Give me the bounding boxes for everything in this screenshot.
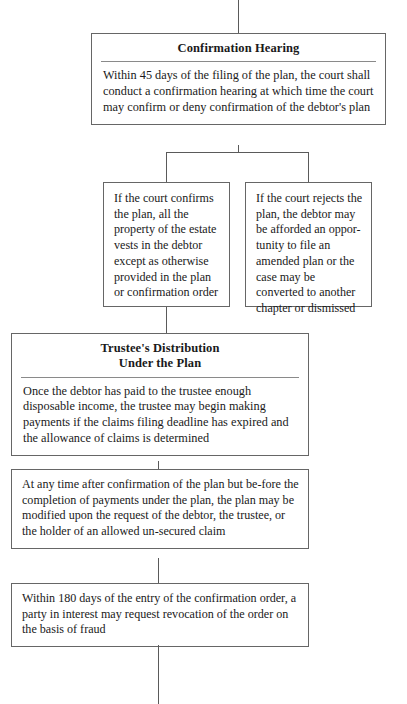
connector-confirms-to-trustee [166,307,167,333]
node-revocation-body: Within 180 days of the entry of the conf… [12,584,308,646]
connector-top-inflow [238,0,239,33]
node-plan-modification: At any time after confirmation of the pl… [11,469,309,549]
node-trustee-distribution-title-line2: Under the Plan [22,356,298,371]
node-confirmation-hearing: Confirmation Hearing Within 45 days of t… [91,33,386,125]
connector-branch-bar [166,152,309,153]
node-trustee-distribution: Trustee's Distribution Under the Plan On… [11,333,309,456]
connector-branch-right-drop [308,152,309,182]
flowchart-canvas: Confirmation Hearing Within 45 days of t… [0,0,407,704]
node-confirmation-hearing-body: Within 45 days of the filing of the plan… [92,62,385,123]
connector-trustee-to-modification [158,461,159,469]
connector-modification-to-revocation [158,558,159,583]
node-plan-modification-body: At any time after confirmation of the pl… [12,470,308,548]
node-confirmation-hearing-title: Confirmation Hearing [92,34,385,61]
connector-bottom-outflow [158,645,159,704]
node-revocation: Within 180 days of the entry of the conf… [11,583,309,647]
node-court-confirms-body: If the court confirms the plan, all the … [104,183,229,307]
node-trustee-distribution-title-line1: Trustee's Distribution [22,341,298,356]
node-court-rejects: If the court rejects the plan, the debto… [245,182,372,307]
connector-branch-left-drop [166,152,167,182]
node-trustee-distribution-body: Once the debtor has paid to the trustee … [12,378,308,455]
node-court-confirms: If the court confirms the plan, all the … [103,182,230,307]
node-court-rejects-body: If the court rejects the plan, the debto… [246,183,371,323]
node-trustee-distribution-title: Trustee's Distribution Under the Plan [12,334,308,377]
